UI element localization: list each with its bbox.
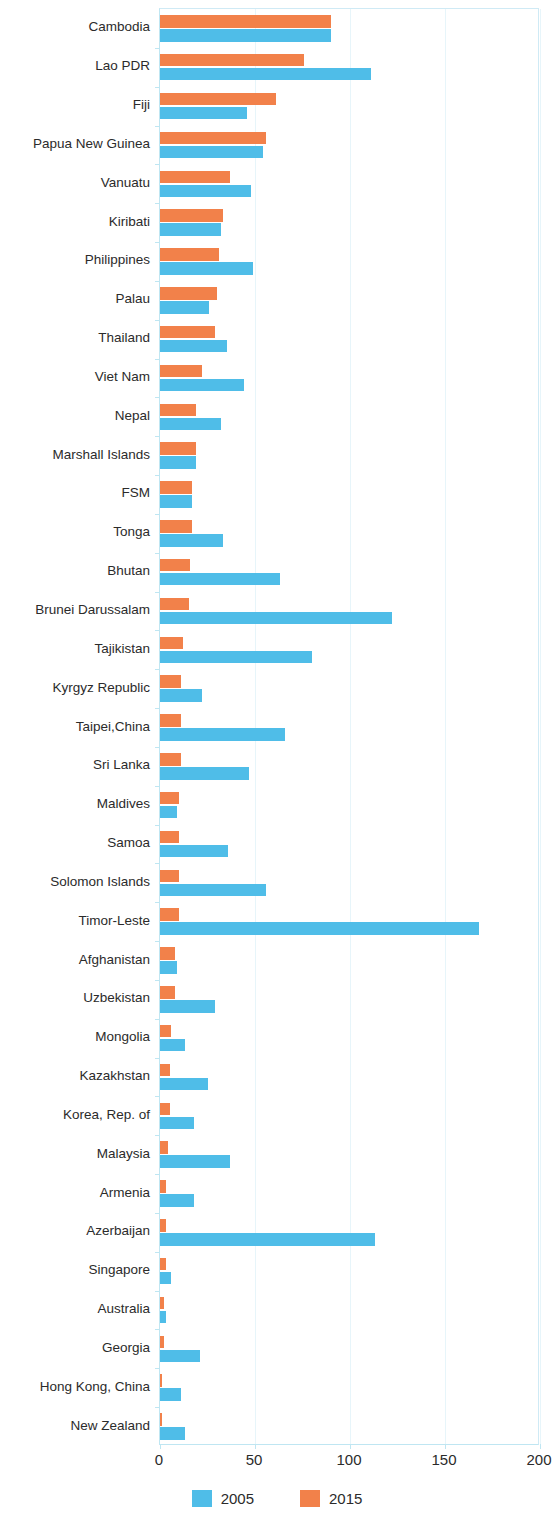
bar-row <box>160 553 538 592</box>
legend-item-2005[interactable]: 2005 <box>192 1490 254 1507</box>
category-label: Samoa <box>7 836 159 850</box>
bar-row <box>160 592 538 631</box>
bar-2005 <box>160 922 479 935</box>
bar-row <box>160 902 538 941</box>
bar-2005 <box>160 262 253 275</box>
bar-2015 <box>160 870 179 883</box>
bar-2015 <box>160 54 304 67</box>
category-label: Afghanistan <box>7 953 159 967</box>
category-label: Palau <box>7 292 159 306</box>
bar-row <box>160 1058 538 1097</box>
bar-row <box>160 242 538 281</box>
category-label: Georgia <box>7 1341 159 1355</box>
bar-2015 <box>160 1025 171 1038</box>
category-label: Uzbekistan <box>7 991 159 1005</box>
chart-legend: 20052015 <box>0 1490 554 1507</box>
gridline <box>540 9 541 1444</box>
category-label: Thailand <box>7 331 159 345</box>
bar-2005 <box>160 146 263 159</box>
plot-area <box>159 8 539 1445</box>
category-label: Singapore <box>7 1263 159 1277</box>
legend-swatch-icon <box>300 1490 320 1507</box>
category-tick <box>155 1407 160 1408</box>
bar-2015 <box>160 404 196 417</box>
bar-2005 <box>160 728 285 741</box>
legend-label: 2015 <box>329 1491 362 1506</box>
bar-row <box>160 320 538 359</box>
bar-row <box>160 1368 538 1407</box>
category-tick <box>155 203 160 204</box>
category-label: Nepal <box>7 409 159 423</box>
category-label: Fiji <box>7 98 159 112</box>
bar-2005 <box>160 301 209 314</box>
bar-2005 <box>160 961 177 974</box>
category-tick <box>155 397 160 398</box>
bar-2015 <box>160 93 276 106</box>
category-tick <box>155 630 160 631</box>
category-tick <box>155 514 160 515</box>
category-label: Bhutan <box>7 564 159 578</box>
category-tick <box>155 747 160 748</box>
bar-row <box>160 281 538 320</box>
x-axis-tick-label: 50 <box>246 1452 263 1467</box>
horizontal-bar-chart: CambodiaLao PDRFijiPapua New GuineaVanua… <box>0 0 554 1523</box>
bar-2005 <box>160 1039 185 1052</box>
category-label: Kiribati <box>7 215 159 229</box>
bar-2005 <box>160 534 223 547</box>
category-label: Timor-Leste <box>7 914 159 928</box>
legend-item-2015[interactable]: 2015 <box>300 1490 362 1507</box>
category-label: Korea, Rep. of <box>7 1108 159 1122</box>
category-tick <box>155 1368 160 1369</box>
category-tick <box>155 48 160 49</box>
category-tick <box>155 708 160 709</box>
bar-2005 <box>160 767 249 780</box>
category-tick <box>155 1329 160 1330</box>
bar-2015 <box>160 481 192 494</box>
bar-row <box>160 747 538 786</box>
bar-row <box>160 941 538 980</box>
bar-2005 <box>160 107 247 120</box>
category-label: Marshall Islands <box>7 448 159 462</box>
bar-2015 <box>160 1413 162 1426</box>
bar-row <box>160 436 538 475</box>
bar-2005 <box>160 418 221 431</box>
bar-2015 <box>160 326 215 339</box>
bar-2015 <box>160 365 202 378</box>
bar-2015 <box>160 442 196 455</box>
bar-2005 <box>160 1272 171 1285</box>
category-label: Malaysia <box>7 1147 159 1161</box>
bar-2005 <box>160 651 312 664</box>
category-label: Lao PDR <box>7 59 159 73</box>
bar-row <box>160 1096 538 1135</box>
x-axis-tick-label: 200 <box>526 1452 551 1467</box>
category-tick <box>155 1252 160 1253</box>
bar-2015 <box>160 792 179 805</box>
category-label: Australia <box>7 1302 159 1316</box>
category-tick <box>155 1058 160 1059</box>
bar-row <box>160 1135 538 1174</box>
bar-2005 <box>160 29 331 42</box>
bar-2015 <box>160 1219 166 1232</box>
bar-2015 <box>160 287 217 300</box>
bar-2005 <box>160 1388 181 1401</box>
bar-2005 <box>160 68 371 81</box>
bar-2005 <box>160 1078 208 1091</box>
category-label: Tonga <box>7 525 159 539</box>
bar-row <box>160 1252 538 1291</box>
bar-2005 <box>160 1233 375 1246</box>
category-tick <box>155 941 160 942</box>
category-tick <box>155 320 160 321</box>
category-tick <box>155 1096 160 1097</box>
bar-2015 <box>160 1064 170 1077</box>
bar-2015 <box>160 559 190 572</box>
x-axis-tick-labels: 050100150200 <box>0 1452 554 1474</box>
bar-row <box>160 87 538 126</box>
category-tick <box>155 592 160 593</box>
bar-2015 <box>160 1374 162 1387</box>
bar-2015 <box>160 1141 168 1154</box>
category-label: Armenia <box>7 1186 159 1200</box>
bar-2015 <box>160 520 192 533</box>
bar-row <box>160 475 538 514</box>
bar-2015 <box>160 171 230 184</box>
bar-2005 <box>160 340 227 353</box>
